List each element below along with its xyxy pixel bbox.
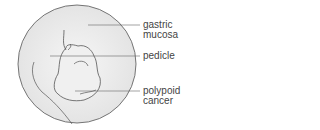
label-gastric-mucosa: gastric mucosa — [143, 20, 178, 40]
label-polypoid-cancer: polypoid cancer — [143, 86, 180, 106]
label-line: cancer — [143, 96, 180, 106]
label-pedicle: pedicle — [143, 51, 175, 61]
label-line: mucosa — [143, 30, 178, 40]
label-line: pedicle — [143, 51, 175, 61]
